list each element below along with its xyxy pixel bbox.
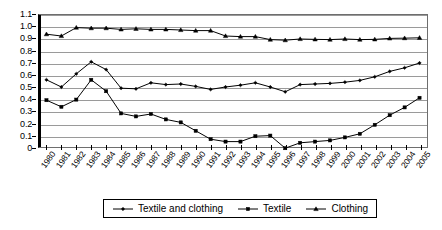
data-point-marker	[373, 123, 376, 126]
x-axis-tick-mark	[61, 145, 62, 150]
data-point-marker	[403, 106, 406, 109]
series-line	[46, 80, 419, 148]
data-point-marker	[328, 82, 331, 85]
x-axis-tick-mark	[346, 145, 347, 150]
legend-item-label: Textile	[263, 203, 291, 214]
chart-legend: Textile and clothingTextileClothing	[103, 199, 377, 218]
square-marker-icon	[237, 204, 259, 214]
x-axis-tick-label: 1986	[129, 150, 147, 170]
data-point-marker	[418, 96, 421, 99]
x-axis-tick-mark	[421, 145, 422, 150]
x-axis-tick-label: 2001	[354, 150, 372, 170]
y-axis-tick-mark	[32, 75, 36, 76]
x-axis-tick-mark	[196, 145, 197, 150]
y-axis-tick-label: 0.9	[20, 34, 32, 43]
y-axis-tick-mark	[32, 38, 36, 39]
x-axis-tick-mark	[121, 145, 122, 150]
data-point-marker	[239, 84, 242, 87]
data-point-marker	[179, 121, 182, 124]
data-point-marker	[164, 118, 167, 121]
x-axis-tick-label: 2005	[414, 150, 432, 170]
x-axis-tick-label: 1980	[39, 150, 57, 170]
line-chart: 00.10.20.30.40.50.60.70.80.91.01.1 19801…	[0, 0, 442, 230]
data-point-marker	[239, 140, 242, 143]
x-axis-labels: 1980198119821983198419851986198719881989…	[38, 150, 428, 196]
y-axis-tick-mark	[32, 124, 36, 125]
data-point-marker	[254, 135, 257, 138]
y-axis-tick-mark	[32, 51, 36, 52]
y-axis-tick-mark	[32, 14, 36, 15]
x-axis-tick-mark	[271, 145, 272, 150]
x-axis-tick-mark	[361, 145, 362, 150]
y-axis-tick-label: 0.1	[20, 131, 32, 140]
data-point-marker	[246, 207, 249, 210]
triangle-marker-icon	[305, 204, 327, 214]
x-axis-tick-mark	[91, 145, 92, 150]
x-axis-tick-mark	[211, 145, 212, 150]
x-axis-tick-mark	[151, 145, 152, 150]
data-point-marker	[90, 78, 93, 81]
data-point-marker	[418, 61, 421, 64]
data-point-marker	[209, 138, 212, 141]
data-point-marker	[313, 140, 316, 143]
x-axis-tick-label: 2003	[384, 150, 402, 170]
x-axis-tick-mark	[241, 145, 242, 150]
data-point-marker	[75, 98, 78, 101]
x-axis-tick-mark	[226, 145, 227, 150]
y-axis-tick-mark	[32, 136, 36, 137]
x-axis-tick-mark	[301, 145, 302, 150]
x-axis-tick-label: 1991	[204, 150, 222, 170]
x-axis-tick-mark	[331, 145, 332, 150]
series-line	[46, 28, 419, 41]
legend-item-clothing[interactable]: Clothing	[305, 203, 368, 214]
data-point-marker	[194, 129, 197, 132]
y-axis-tick-mark	[32, 99, 36, 100]
data-point-marker	[313, 82, 316, 85]
data-point-marker	[343, 136, 346, 139]
y-axis-tick-mark	[32, 148, 36, 149]
x-axis-tick-label: 1981	[54, 150, 72, 170]
x-axis-tick-label: 1993	[234, 150, 252, 170]
x-axis-tick-mark	[166, 145, 167, 150]
x-axis-tick-label: 1998	[309, 150, 327, 170]
x-axis-tick-label: 2000	[339, 150, 357, 170]
data-point-marker	[45, 99, 48, 102]
data-point-marker	[403, 66, 406, 69]
x-axis-tick-label: 1995	[264, 150, 282, 170]
y-axis-tick-mark	[32, 63, 36, 64]
data-point-marker	[121, 207, 124, 210]
x-axis-tick-label: 1999	[324, 150, 342, 170]
legend-item-textile[interactable]: Textile	[237, 203, 291, 214]
x-axis-tick-label: 1988	[159, 150, 177, 170]
x-axis-tick-mark	[406, 145, 407, 150]
data-point-marker	[45, 78, 48, 81]
x-axis-tick-label: 1989	[174, 150, 192, 170]
y-axis-tick-label: 0.6	[20, 70, 32, 79]
x-axis-tick-mark	[46, 145, 47, 150]
data-point-marker	[134, 87, 137, 90]
x-axis-tick-mark	[181, 145, 182, 150]
x-axis-tick-mark	[76, 145, 77, 150]
data-point-marker	[149, 112, 152, 115]
legend-item-textile-and-clothing[interactable]: Textile and clothing	[112, 203, 223, 214]
data-point-marker	[269, 134, 272, 137]
series-textile	[45, 78, 421, 150]
series-line	[46, 62, 419, 92]
y-axis-tick-label: 1.0	[20, 22, 32, 31]
data-point-marker	[269, 85, 272, 88]
data-point-marker	[134, 115, 137, 118]
y-axis-tick-mark	[32, 87, 36, 88]
data-point-marker	[358, 132, 361, 135]
legend-item-label: Textile and clothing	[138, 203, 223, 214]
data-point-marker	[119, 112, 122, 115]
x-axis-tick-label: 1994	[249, 150, 267, 170]
data-point-marker	[388, 114, 391, 117]
x-axis-tick-mark	[256, 145, 257, 150]
data-point-marker	[209, 88, 212, 91]
x-axis-tick-mark	[376, 145, 377, 150]
x-axis-tick-label: 1990	[189, 150, 207, 170]
plot-area	[38, 14, 428, 148]
data-point-marker	[224, 85, 227, 88]
series-textile-and-clothing	[45, 60, 421, 93]
series-clothing	[44, 25, 422, 41]
